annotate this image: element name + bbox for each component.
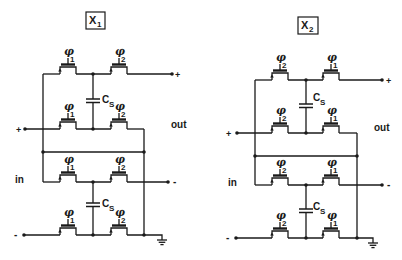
phi-label: φ 1 bbox=[327, 51, 338, 70]
phi-label: φ 1 bbox=[64, 45, 75, 64]
phi-label: φ 1 bbox=[327, 209, 338, 228]
terminal-dot bbox=[170, 72, 174, 76]
capacitor-2: C S bbox=[86, 182, 115, 235]
svg-text:1: 1 bbox=[70, 55, 75, 64]
phi-label: φ 1 bbox=[327, 104, 338, 123]
title-box-x1: X 1 bbox=[86, 12, 105, 29]
circuit-x2: X 2 + φ 2 φ 1 C bbox=[226, 17, 391, 248]
row-2: + φ 2 φ 1 bbox=[226, 104, 357, 139]
row-2: + φ 1 φ 2 bbox=[16, 100, 144, 135]
phi-label: φ 2 bbox=[115, 100, 126, 119]
terminal-plus: + bbox=[175, 70, 180, 80]
svg-text:2: 2 bbox=[282, 166, 287, 175]
svg-text:2: 2 bbox=[121, 110, 126, 119]
schematic-canvas: X 1 + φ 1 φ 2 bbox=[0, 0, 402, 260]
row-1: + φ 2 φ 1 bbox=[255, 51, 391, 86]
svg-text:X: X bbox=[301, 19, 309, 31]
svg-text:1: 1 bbox=[70, 110, 75, 119]
circuit-x1: X 1 + φ 1 φ 2 bbox=[14, 12, 187, 245]
terminal-minus: - bbox=[226, 232, 229, 243]
in-label: in bbox=[228, 177, 237, 188]
capacitor-2: C S bbox=[299, 185, 326, 238]
terminal-minus: - bbox=[173, 176, 176, 187]
capacitor-1: C S bbox=[299, 80, 326, 133]
row-3: - φ 2 φ 1 bbox=[255, 156, 390, 190]
phi-label: φ 1 bbox=[64, 100, 75, 119]
svg-text:S: S bbox=[320, 207, 326, 216]
terminal-minus: - bbox=[14, 229, 17, 240]
out-label: out bbox=[171, 119, 187, 130]
title-box-x2: X 2 bbox=[298, 17, 318, 34]
phi-label: φ 2 bbox=[115, 45, 126, 64]
phi-label: φ 2 bbox=[115, 206, 126, 225]
ground-icon bbox=[368, 243, 378, 248]
svg-text:2: 2 bbox=[282, 61, 287, 70]
phi-label: φ 1 bbox=[327, 156, 338, 175]
svg-text:1: 1 bbox=[333, 114, 338, 123]
in-label: in bbox=[15, 174, 24, 185]
phi-label: φ 2 bbox=[276, 51, 287, 70]
svg-text:2: 2 bbox=[282, 219, 287, 228]
svg-text:1: 1 bbox=[333, 61, 338, 70]
phi-label: φ 2 bbox=[276, 104, 287, 123]
phi-label: φ 2 bbox=[115, 153, 126, 172]
row-1: + φ 1 φ 2 bbox=[43, 45, 180, 80]
phi-label: φ 2 bbox=[276, 156, 287, 175]
terminal-plus: + bbox=[386, 76, 391, 86]
row-3: - φ 1 φ 2 bbox=[43, 153, 176, 187]
svg-text:1: 1 bbox=[333, 166, 338, 175]
row-4: - φ 2 φ 1 bbox=[226, 209, 378, 248]
svg-text:1: 1 bbox=[70, 163, 75, 172]
terminal-minus: - bbox=[387, 179, 390, 190]
svg-text:2: 2 bbox=[309, 25, 314, 34]
svg-text:1: 1 bbox=[333, 219, 338, 228]
svg-text:2: 2 bbox=[121, 216, 126, 225]
svg-text:X: X bbox=[89, 14, 97, 26]
phi-label: φ 1 bbox=[64, 206, 75, 225]
svg-text:2: 2 bbox=[121, 163, 126, 172]
phi-label: φ 2 bbox=[276, 209, 287, 228]
svg-text:1: 1 bbox=[70, 216, 75, 225]
svg-text:2: 2 bbox=[121, 55, 126, 64]
out-label: out bbox=[374, 122, 390, 133]
ground-icon bbox=[157, 240, 167, 245]
svg-text:1: 1 bbox=[97, 20, 102, 29]
capacitor-1: C S bbox=[86, 74, 115, 129]
svg-text:2: 2 bbox=[282, 114, 287, 123]
svg-text:S: S bbox=[320, 98, 326, 107]
phi-label: φ 1 bbox=[64, 153, 75, 172]
terminal-plus: + bbox=[226, 129, 231, 139]
terminal-plus: + bbox=[16, 125, 21, 135]
